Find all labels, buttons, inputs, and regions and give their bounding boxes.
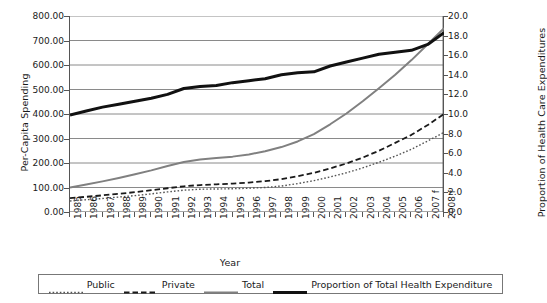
data-series-line [70, 114, 444, 198]
y-axis-right-tick-label: 14.0 [448, 70, 468, 80]
x-axis-tickmark [329, 212, 330, 217]
y-axis-right-tick-label: 18.0 [448, 31, 468, 41]
x-axis-title: Year [0, 257, 460, 268]
y-axis-left-tick-label: 0.00 [44, 207, 64, 217]
x-axis-tickmark [297, 212, 298, 217]
y-axis-left-tick-label: 800.00 [33, 11, 65, 21]
x-axis-tickmark [167, 212, 168, 217]
chart-legend: PublicPrivateTotalProportion of Total He… [38, 274, 503, 294]
legend-item[interactable]: Total [204, 279, 264, 290]
x-axis-tickmark [134, 212, 135, 217]
legend-swatch-icon [49, 281, 83, 288]
y-axis-right-title: Proportion of Health Care Expenditures [536, 28, 547, 218]
x-axis-tickmark [150, 212, 151, 217]
x-axis-tickmark [102, 212, 103, 217]
plot-lines [70, 16, 444, 212]
x-axis-tickmark [232, 212, 233, 217]
y-axis-left-tick-label: 700.00 [33, 36, 65, 46]
y-axis-right-tick-label: 12.0 [448, 89, 468, 99]
legend-item[interactable]: Private [124, 279, 195, 290]
y-axis-right-tick-label: 6.0 [448, 148, 462, 158]
x-axis-tickmark [313, 212, 314, 217]
x-axis-tickmark [85, 212, 86, 217]
legend-swatch-icon [204, 281, 238, 288]
x-axis-tickmark [378, 212, 379, 217]
x-axis-tickmark [427, 212, 428, 217]
y-axis-right-tick-label: 10.0 [448, 109, 468, 119]
y-axis-right-tick-label: 8.0 [448, 129, 462, 139]
x-axis-tickmark [248, 212, 249, 217]
plot-area [69, 16, 444, 212]
x-axis-tick-label: 2008 f [447, 190, 457, 219]
legend-label: Private [162, 279, 195, 290]
x-axis-tickmark [345, 212, 346, 217]
y-axis-left-tick-label: 300.00 [33, 134, 65, 144]
y-axis-left-tick-label: 200.00 [33, 158, 65, 168]
y-axis-right-tick-label: 4.0 [448, 168, 462, 178]
x-axis-tickmark [199, 212, 200, 217]
data-series-line [70, 132, 444, 201]
y-axis-left-tick-label: 500.00 [33, 85, 65, 95]
x-axis-tickmark [410, 212, 411, 217]
x-axis-tickmark [394, 212, 395, 217]
x-axis-tickmark [183, 212, 184, 217]
legend-item[interactable]: Proportion of Total Health Expenditure [273, 279, 492, 290]
legend-swatch-icon [273, 281, 307, 288]
legend-label: Public [87, 279, 115, 290]
y-axis-right-ticks: 0.02.04.06.08.010.012.014.016.018.020.0 [448, 0, 488, 303]
x-axis-tickmark [215, 212, 216, 217]
legend-label: Proportion of Total Health Expenditure [311, 279, 492, 290]
x-axis-tickmark [280, 212, 281, 217]
x-axis-tickmark [443, 212, 444, 217]
x-axis-tickmark [69, 212, 70, 217]
y-axis-right-tick-label: 16.0 [448, 50, 468, 60]
legend-item[interactable]: Public [49, 279, 115, 290]
data-series-line [70, 33, 444, 115]
y-axis-left-tick-label: 600.00 [33, 60, 65, 70]
legend-label: Total [242, 279, 264, 290]
x-axis-tickmark [118, 212, 119, 217]
y-axis-left-tick-label: 400.00 [33, 109, 65, 119]
y-axis-left-ticks: 0.00100.00200.00300.00400.00500.00600.00… [0, 0, 64, 303]
x-axis-tickmark [362, 212, 363, 217]
y-axis-right-tick-label: 20.0 [448, 11, 468, 21]
legend-swatch-icon [124, 281, 158, 288]
x-axis-tickmark [264, 212, 265, 217]
y-axis-left-tick-label: 100.00 [33, 183, 65, 193]
